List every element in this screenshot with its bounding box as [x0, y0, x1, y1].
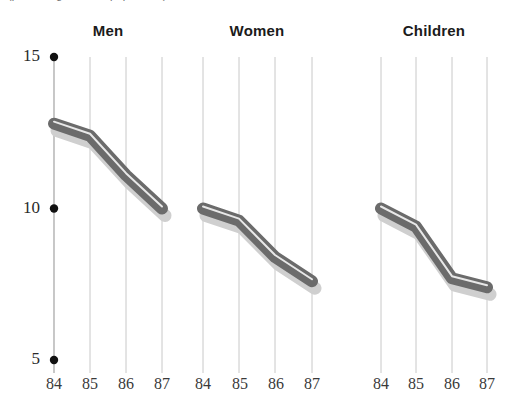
series-line-women — [203, 207, 315, 289]
series-body-children — [381, 209, 487, 288]
y-tick-dot-15 — [50, 53, 58, 61]
series-line-men — [54, 122, 165, 216]
series-line-children — [381, 207, 490, 295]
gridlines-group — [54, 57, 487, 373]
y-tick-dot-5 — [50, 356, 58, 364]
series-group — [54, 122, 490, 295]
plot-canvas — [0, 0, 516, 420]
y-tick-dot-10 — [50, 204, 58, 212]
chart-figure: (percentage of total population) Men Wom… — [0, 0, 516, 420]
series-body-women — [203, 209, 312, 282]
